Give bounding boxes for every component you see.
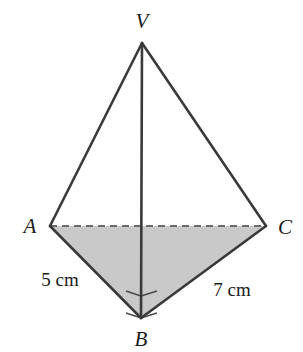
vertex-label-A: A (24, 216, 37, 237)
vertex-label-B: B (135, 329, 148, 350)
length-label-BC: 7 cm (213, 280, 250, 299)
edge-VA (50, 43, 142, 226)
geometry-figure: V A C B 5 cm 7 cm (0, 0, 303, 352)
length-label-AB: 5 cm (41, 270, 78, 289)
edge-VB (141, 43, 142, 318)
vertex-label-C: C (278, 217, 292, 238)
edge-VC (142, 43, 266, 226)
vertex-label-V: V (136, 11, 149, 32)
pyramid-drawing (0, 0, 303, 352)
